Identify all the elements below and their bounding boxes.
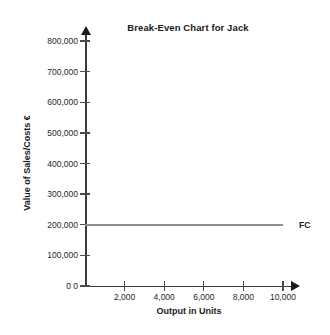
y-axis-arrow-icon bbox=[81, 26, 91, 35]
break-even-chart: Break-Even Chart for Jack 0100,000200,00… bbox=[0, 0, 330, 335]
y-axis-tick-label: 300,000 bbox=[24, 189, 78, 199]
y-axis-tick bbox=[80, 193, 90, 194]
x-axis-tick-label: 8,000 bbox=[221, 292, 265, 302]
plot-area: 0100,000200,000300,000400,000500,000600,… bbox=[0, 0, 330, 335]
y-axis-tick-label: 700,000 bbox=[24, 67, 78, 77]
y-axis-tick bbox=[80, 40, 90, 41]
x-axis-tick bbox=[282, 281, 283, 291]
y-axis-tick bbox=[80, 102, 90, 103]
y-axis-tick bbox=[80, 255, 90, 256]
x-axis-arrow-icon bbox=[291, 281, 300, 291]
y-axis-tick-label: 100,000 bbox=[24, 250, 78, 260]
x-axis-line bbox=[85, 286, 293, 288]
y-axis-title: Value of Sales/Costs € bbox=[22, 88, 32, 238]
x-axis-tick-label: 4,000 bbox=[142, 292, 186, 302]
x-axis-tick bbox=[124, 281, 125, 291]
y-axis-tick-label: 600,000 bbox=[24, 97, 78, 107]
x-axis-tick-label: 10,000 bbox=[261, 292, 305, 302]
series-label-fc: FC bbox=[299, 220, 310, 230]
x-axis-title: Output in Units bbox=[85, 306, 293, 316]
x-axis-tick bbox=[243, 281, 244, 291]
y-axis-tick-label: 200,000 bbox=[24, 220, 78, 230]
x-axis-tick-label: 6,000 bbox=[182, 292, 226, 302]
y-axis-tick-label: 400,000 bbox=[24, 159, 78, 169]
series-line-fc bbox=[85, 224, 283, 226]
x-axis-tick bbox=[203, 281, 204, 291]
x-axis-tick bbox=[164, 281, 165, 291]
x-axis-tick-label: 2,000 bbox=[103, 292, 147, 302]
y-axis-tick bbox=[80, 163, 90, 164]
y-axis-tick bbox=[80, 71, 90, 72]
y-axis-tick bbox=[80, 285, 90, 286]
y-axis-tick-label: 800,000 bbox=[24, 36, 78, 46]
x-axis-tick-label: 0 bbox=[55, 281, 71, 291]
y-axis-tick-label: 500,000 bbox=[24, 128, 78, 138]
y-axis-tick bbox=[80, 132, 90, 133]
